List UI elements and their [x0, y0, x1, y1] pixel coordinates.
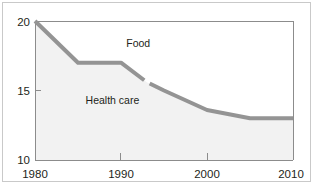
- x-tick-label-1980: 1980: [22, 168, 48, 180]
- series-annotation-food: Food: [126, 37, 150, 49]
- y-tick-label-20: 20: [17, 16, 30, 28]
- series-annotation-health-care: Health care: [86, 94, 140, 106]
- x-tick-label-1990: 1990: [108, 168, 134, 180]
- chart-figure: 20 15 10 1980 1990 2000 2010 Food Health…: [0, 0, 314, 187]
- y-tick-label-10: 10: [17, 154, 30, 166]
- y-axis-tick-labels: 20 15 10: [17, 16, 30, 166]
- x-axis-tick-labels: 1980 1990 2000 2010: [22, 168, 304, 180]
- x-tick-label-2010: 2010: [278, 168, 304, 180]
- line-chart: 20 15 10 1980 1990 2000 2010 Food Health…: [0, 0, 314, 187]
- x-tick-label-2000: 2000: [194, 168, 220, 180]
- y-tick-label-15: 15: [17, 85, 30, 97]
